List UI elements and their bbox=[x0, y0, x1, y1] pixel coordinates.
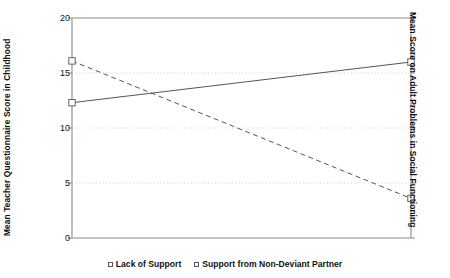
legend-label-0: Lack of Support bbox=[116, 259, 181, 269]
series-line-1 bbox=[72, 62, 411, 103]
gridlines bbox=[72, 73, 411, 183]
right-axis-title: Mean Score on Adult Problems in Social F… bbox=[406, 0, 420, 246]
legend-marker-icon-1 bbox=[194, 262, 199, 267]
y-tick-label-15: 15 bbox=[48, 68, 70, 79]
series-1-marker-0 bbox=[69, 100, 75, 106]
y-tick-label-5: 5 bbox=[48, 178, 70, 189]
series-0-marker-0 bbox=[69, 58, 75, 64]
y-tick-label-0: 0 bbox=[48, 233, 70, 244]
legend-item-0[interactable]: Lack of Support bbox=[108, 259, 181, 269]
legend-label-1: Support from Non-Deviant Partner bbox=[202, 259, 342, 269]
y-tick-label-10: 10 bbox=[48, 123, 70, 134]
chart-legend: Lack of Support Support from Non-Deviant… bbox=[0, 256, 450, 272]
axis-spines bbox=[72, 18, 411, 238]
series-line-0 bbox=[72, 61, 411, 199]
chart-figure: Mean Teacher Questionnaire Score in Chil… bbox=[0, 0, 450, 278]
data-series-layer bbox=[69, 58, 414, 202]
left-axis-title: Mean Teacher Questionnaire Score in Chil… bbox=[0, 0, 14, 238]
legend-item-1[interactable]: Support from Non-Deviant Partner bbox=[194, 259, 342, 269]
y-tick-label-20: 20 bbox=[48, 13, 70, 24]
legend-marker-icon-0 bbox=[108, 262, 113, 267]
